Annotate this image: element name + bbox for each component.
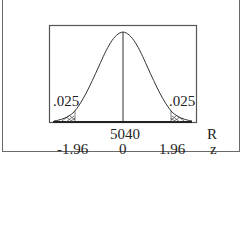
z-left-label: -1.96 [57, 142, 88, 157]
z-axis-label: z [210, 142, 217, 157]
r-center-label: 5040 [110, 127, 140, 142]
right-tail-label: .025 [169, 94, 195, 109]
z-center-label: 0 [119, 142, 127, 157]
r-axis-label: R [207, 127, 217, 142]
z-right-label: 1.96 [159, 142, 185, 157]
left-tail-label: .025 [53, 94, 79, 109]
